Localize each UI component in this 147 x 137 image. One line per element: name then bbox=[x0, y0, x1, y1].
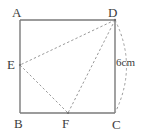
geometry-figure: A D E B F C 6cm bbox=[0, 0, 147, 137]
vertex-marker-E bbox=[19, 64, 21, 66]
segment-DE bbox=[20, 20, 115, 65]
dimension-label-dc: 6cm bbox=[116, 57, 135, 68]
vertex-label-e: E bbox=[7, 58, 15, 71]
segment-DF bbox=[68, 20, 115, 113]
vertex-label-a: A bbox=[12, 6, 21, 19]
segment-EF bbox=[20, 65, 68, 113]
vertex-label-b: B bbox=[14, 117, 23, 130]
vertex-label-d: D bbox=[108, 6, 117, 19]
vertex-label-c: C bbox=[112, 118, 121, 131]
vertex-marker-F bbox=[67, 112, 69, 114]
vertex-label-f: F bbox=[62, 117, 69, 130]
